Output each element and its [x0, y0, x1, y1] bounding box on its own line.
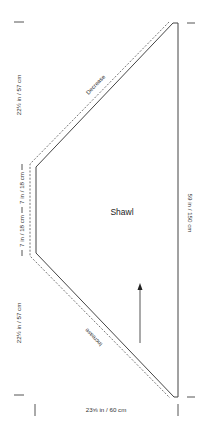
dim-left-top-section: 22½ in / 57 cm: [15, 75, 22, 116]
dim-left-middle-upper: 7 in / 18 cm: [18, 172, 25, 204]
shawl-outline: [36, 23, 178, 397]
knitting-direction-arrow-icon: [138, 283, 143, 343]
increase-label: Increase: [84, 327, 104, 347]
shawl-schematic: 22½ in / 57 cm 7 in / 18 cm 7 in / 18 cm…: [0, 0, 208, 433]
dim-bottom-width: 23⅝ in / 60 cm: [86, 406, 127, 413]
shawl-title: Shawl: [110, 207, 133, 217]
dim-right-full-length: 59 in / 150 cm: [187, 194, 194, 233]
dim-left-middle-lower: 7 in / 18 cm: [18, 215, 25, 247]
decrease-label: Decrease: [85, 74, 107, 96]
dim-left-bottom-section: 22½ in / 57 cm: [15, 303, 22, 344]
